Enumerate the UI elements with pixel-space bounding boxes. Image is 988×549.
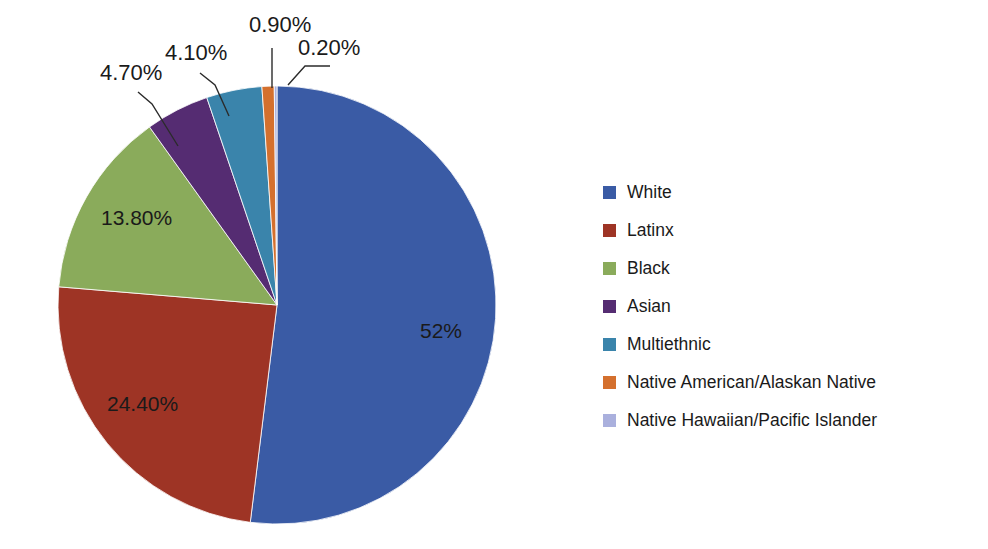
legend-swatch-icon — [603, 186, 616, 199]
pie-slice-white[interactable] — [250, 86, 496, 524]
legend-item-multiethnic[interactable]: Multiethnic — [603, 325, 973, 363]
pie-chart-figure: 4.70% 4.10% 0.90% 0.20% 13.80% 24.40% 52… — [0, 0, 988, 549]
legend-item-latinx[interactable]: Latinx — [603, 211, 973, 249]
legend-item-label: Multiethnic — [627, 325, 711, 363]
legend-item-label: Native American/Alaskan Native — [627, 363, 876, 401]
slice-label-latinx: 24.40% — [107, 392, 178, 415]
legend-swatch-icon — [603, 338, 616, 351]
legend-item-label: Latinx — [627, 211, 674, 249]
callout-label-asian: 4.70% — [100, 60, 162, 85]
chart-legend: White Latinx Black Asian Multiethnic Nat… — [603, 173, 973, 439]
callout-label-native-hawaiian: 0.20% — [298, 35, 360, 60]
callout-label-multiethnic: 4.10% — [165, 40, 227, 65]
legend-item-label: White — [627, 173, 672, 211]
legend-swatch-icon — [603, 414, 616, 427]
legend-item-native-american[interactable]: Native American/Alaskan Native — [603, 363, 973, 401]
callout-label-native-american: 0.90% — [249, 12, 311, 37]
legend-item-label: Asian — [627, 287, 671, 325]
legend-swatch-icon — [603, 376, 616, 389]
legend-item-black[interactable]: Black — [603, 249, 973, 287]
legend-item-asian[interactable]: Asian — [603, 287, 973, 325]
legend-swatch-icon — [603, 300, 616, 313]
legend-item-white[interactable]: White — [603, 173, 973, 211]
legend-item-label: Black — [627, 249, 670, 287]
legend-swatch-icon — [603, 224, 616, 237]
pie-slices-group — [58, 86, 496, 524]
legend-item-label: Native Hawaiian/Pacific Islander — [627, 401, 877, 439]
pie-svg: 4.70% 4.10% 0.90% 0.20% 13.80% 24.40% 52… — [0, 0, 560, 549]
pie-plot-area: 4.70% 4.10% 0.90% 0.20% 13.80% 24.40% 52… — [0, 0, 560, 549]
legend-item-native-hawaiian[interactable]: Native Hawaiian/Pacific Islander — [603, 401, 973, 439]
slice-label-black: 13.80% — [101, 206, 172, 229]
slice-label-white: 52% — [420, 319, 462, 342]
leader-line-native-hawaiian — [288, 66, 330, 85]
legend-swatch-icon — [603, 262, 616, 275]
